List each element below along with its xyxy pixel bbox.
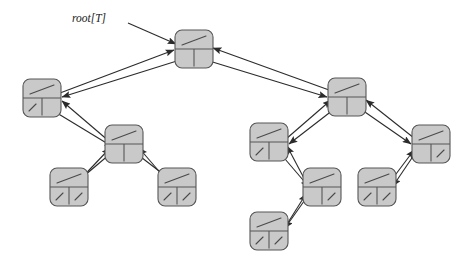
label-layer: root[T] bbox=[72, 12, 106, 24]
left-to-lr-edge bbox=[52, 110, 113, 147]
right-right-child-edge bbox=[362, 110, 411, 144]
tree-node-n-rr[interactable] bbox=[412, 125, 450, 163]
tree-node-n-l[interactable] bbox=[23, 79, 61, 117]
diagram-canvas: root[T] bbox=[0, 0, 472, 263]
left-child-parent-edge bbox=[60, 50, 174, 93]
tree-node-n-rlr[interactable] bbox=[303, 168, 341, 206]
right-child-parent-edge bbox=[213, 48, 329, 90]
tree-node-n-r[interactable] bbox=[328, 78, 366, 116]
tree-node-n-rrl[interactable] bbox=[358, 168, 396, 206]
tree-node-n-lrl[interactable] bbox=[50, 168, 88, 206]
tree-node-n-rlrl[interactable] bbox=[250, 212, 288, 250]
right-left-child-edge bbox=[289, 110, 333, 144]
tree-node-n-lrr[interactable] bbox=[158, 168, 196, 206]
root-left-child-edge bbox=[62, 60, 180, 97]
tree-node-n-rl[interactable] bbox=[250, 123, 288, 161]
lr-to-left-parent-edge bbox=[62, 101, 110, 142]
root-right-child-edge bbox=[206, 60, 327, 97]
root-pointer-arrow bbox=[128, 23, 176, 44]
rl-parent-edge bbox=[286, 100, 331, 139]
tree-node-n-lr[interactable] bbox=[105, 125, 143, 163]
node-layer bbox=[23, 30, 450, 250]
bst-diagram: root[T] bbox=[0, 0, 472, 263]
tree-node-root[interactable] bbox=[175, 30, 213, 68]
rr-parent-edge bbox=[366, 100, 414, 138]
root-pointer-label: root[T] bbox=[72, 12, 106, 24]
